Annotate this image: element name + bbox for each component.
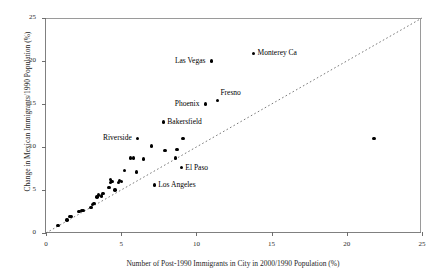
point-label: Bakersfield [167, 117, 202, 127]
x-axis-tick-label: 20 [343, 239, 350, 250]
x-axis-tick-label: 0 [44, 239, 48, 250]
y-axis-tick: 5 [42, 190, 46, 191]
x-axis-tick-label: 10 [193, 239, 200, 250]
data-point-labeled [153, 183, 156, 186]
data-point [175, 148, 178, 151]
data-point-labeled [204, 102, 207, 105]
data-point [120, 180, 123, 183]
x-axis-tick-label: 15 [268, 239, 275, 250]
y-axis-tick: 20 [42, 61, 46, 62]
x-axis-tick: 20 [347, 232, 348, 236]
data-point [135, 170, 138, 173]
point-label: Phoenix [175, 99, 200, 109]
data-point [150, 144, 153, 147]
point-label: Fresno [220, 88, 240, 98]
point-label: Riverside [103, 133, 132, 143]
point-label: Las Vegas [175, 56, 205, 66]
y-axis-tick-label: 0 [33, 227, 37, 238]
x-axis-title: Number of Post-1990 Immigrants in City i… [45, 258, 421, 269]
point-label: Los Angeles [158, 180, 195, 190]
data-point [132, 156, 135, 159]
x-axis-tick-label: 25 [419, 239, 426, 250]
point-label: Monterey Ca [258, 48, 297, 58]
x-axis-tick: 15 [272, 232, 273, 236]
data-point [113, 188, 116, 191]
y-axis-tick: 25 [42, 18, 46, 19]
scatter-plot-figure: 0510152025 0510152025 Las VegasMonterey … [0, 0, 445, 279]
data-point [101, 192, 104, 195]
x-axis-tick: 10 [196, 232, 197, 236]
y-axis-tick: 15 [42, 104, 46, 105]
data-point [56, 224, 59, 227]
data-point [123, 169, 126, 172]
data-point [107, 186, 110, 189]
x-axis-tick: 0 [46, 232, 47, 236]
data-point-labeled [210, 59, 213, 62]
x-axis-tick: 25 [422, 232, 423, 236]
data-point [372, 137, 375, 140]
y-axis-tick-label: 5 [33, 184, 37, 195]
y-axis-tick: 10 [42, 147, 46, 148]
data-point [163, 149, 166, 152]
x-axis-tick-label: 5 [119, 239, 123, 250]
y-axis-title: Change in Mexican Immigrants/1990 Popula… [22, 12, 33, 212]
data-point [110, 180, 113, 183]
x-axis-tick: 5 [121, 232, 122, 236]
point-label: El Paso [185, 163, 208, 173]
data-point [65, 218, 68, 221]
reference-diagonal-line [46, 18, 422, 233]
data-point-labeled [162, 120, 165, 123]
plot-area: 0510152025 0510152025 Las VegasMonterey … [45, 18, 421, 233]
data-point [174, 156, 177, 159]
data-point [181, 137, 184, 140]
